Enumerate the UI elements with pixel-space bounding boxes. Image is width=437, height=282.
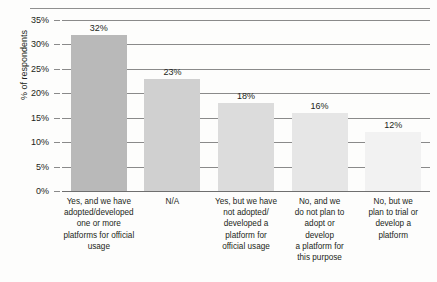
x-axis-labels-group: Yes, and we haveadopted/developedone or …: [62, 196, 430, 276]
x-axis-category-label: Yes, but we havenot adopted/developed ap…: [209, 196, 283, 252]
bar[interactable]: [292, 113, 348, 191]
bar-value-label: 12%: [365, 120, 421, 130]
y-axis-tick-label: 0%: [9, 186, 49, 196]
y-axis-tick: [54, 69, 60, 70]
bar-slot: 23%: [144, 20, 200, 191]
chart-figure: % of respondents 35%30%25%20%15%10%5%0% …: [0, 0, 437, 282]
y-axis-tick-label: 20%: [9, 88, 49, 98]
bar[interactable]: [365, 132, 421, 191]
y-axis-tick-label: 10%: [9, 137, 49, 147]
bar-slot: 12%: [365, 20, 421, 191]
x-axis-category-label: N/A: [136, 196, 210, 207]
y-axis-tick: [54, 191, 60, 192]
bar-slot: 32%: [71, 20, 127, 191]
bar-value-label: 23%: [144, 67, 200, 77]
bars-group: 32%23%18%16%12%: [62, 20, 430, 191]
cut-off-title: [0, 0, 437, 7]
y-axis-tick: [54, 20, 60, 21]
y-axis-tick-label: 15%: [9, 113, 49, 123]
y-axis-tick-label: 30%: [9, 39, 49, 49]
y-axis-tick: [54, 142, 60, 143]
bar-slot: 16%: [292, 20, 348, 191]
y-axis-tick: [54, 44, 60, 45]
gridline: [62, 191, 430, 192]
y-axis-tick-label: 35%: [9, 15, 49, 25]
plot-area: 35%30%25%20%15%10%5%0% 32%23%18%16%12%: [62, 20, 430, 191]
y-axis-tick: [54, 93, 60, 94]
bar-value-label: 16%: [292, 101, 348, 111]
x-axis-category-label: No, but weplan to trial ordevelop aplatf…: [356, 196, 430, 241]
bar-value-label: 18%: [218, 91, 274, 101]
bar[interactable]: [144, 79, 200, 191]
y-axis-tick-label: 25%: [9, 64, 49, 74]
bar[interactable]: [71, 35, 127, 191]
bar-value-label: 32%: [71, 23, 127, 33]
bar-slot: 18%: [218, 20, 274, 191]
y-axis-tick: [54, 167, 60, 168]
top-horizontal-rule: [30, 8, 430, 9]
bar[interactable]: [218, 103, 274, 191]
x-axis-category-label: No, and wedo not plan toadopt ordevelopa…: [283, 196, 357, 263]
y-axis-tick: [54, 118, 60, 119]
y-axis-tick-label: 5%: [9, 162, 49, 172]
x-axis-category-label: Yes, and we haveadopted/developedone or …: [62, 196, 136, 252]
